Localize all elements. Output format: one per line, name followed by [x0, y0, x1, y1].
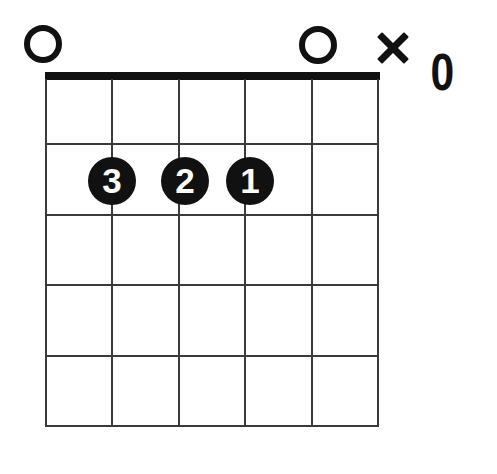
fret-line-3 — [45, 284, 379, 286]
string-line-2 — [111, 79, 113, 427]
fret-line-2 — [45, 214, 379, 216]
finger-dot-label: 3 — [102, 163, 121, 198]
finger-dot-string-4-fret-2: 1 — [226, 157, 274, 205]
string-line-4 — [244, 79, 246, 427]
finger-dot-string-2-fret-2: 3 — [88, 157, 136, 205]
open-string-marker-1-icon — [24, 25, 62, 63]
finger-dot-label: 1 — [240, 163, 259, 198]
fret-number-label: 0 — [431, 46, 454, 98]
open-string-marker-5-icon — [299, 26, 337, 64]
string-line-6 — [377, 79, 379, 427]
finger-dot-label: 2 — [175, 163, 194, 198]
string-line-1 — [45, 79, 47, 427]
nut-bar — [45, 72, 380, 80]
fret-line-4 — [45, 355, 379, 357]
string-line-3 — [178, 79, 180, 427]
fret-line-1 — [45, 143, 379, 145]
fret-line-5 — [45, 425, 379, 427]
string-line-5 — [311, 79, 313, 427]
muted-string-marker-6-icon — [371, 26, 415, 70]
chord-diagram: 0 3 2 1 — [0, 0, 497, 474]
finger-dot-string-3-fret-2: 2 — [161, 157, 209, 205]
